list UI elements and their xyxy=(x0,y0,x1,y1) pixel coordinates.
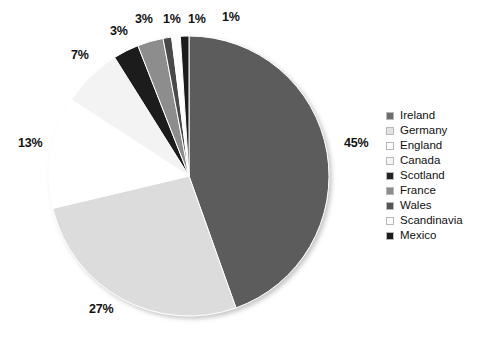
legend-swatch-icon xyxy=(386,217,394,225)
legend-item-england[interactable]: England xyxy=(386,138,492,153)
pie-chart-area: 45%27%13%7%3%3%1%1%1% xyxy=(0,0,380,342)
legend-item-ireland[interactable]: Ireland xyxy=(386,108,492,123)
chart-legend: IrelandGermanyEnglandCanadaScotlandFranc… xyxy=(386,108,492,243)
legend-item-mexico[interactable]: Mexico xyxy=(386,228,492,243)
legend-item-label: Scandinavia xyxy=(400,214,463,227)
pie-slices-group xyxy=(49,36,329,316)
slice-percent-label: 3% xyxy=(110,24,128,38)
slice-percent-label: 7% xyxy=(71,48,89,62)
slice-percent-label: 1% xyxy=(188,12,206,26)
pie-chart-svg xyxy=(0,0,380,342)
legend-item-label: Mexico xyxy=(400,229,436,242)
slice-percent-label: 27% xyxy=(89,302,113,316)
slice-percent-label: 45% xyxy=(344,136,368,150)
legend-item-label: Ireland xyxy=(400,109,435,122)
legend-item-label: Wales xyxy=(400,199,432,212)
slice-percent-label: 3% xyxy=(135,12,153,26)
legend-item-label: France xyxy=(400,184,436,197)
legend-swatch-icon xyxy=(386,112,394,120)
legend-swatch-icon xyxy=(386,172,394,180)
legend-swatch-icon xyxy=(386,202,394,210)
legend-item-france[interactable]: France xyxy=(386,183,492,198)
legend-item-label: Canada xyxy=(400,154,440,167)
slice-percent-label: 1% xyxy=(222,10,240,24)
legend-swatch-icon xyxy=(386,187,394,195)
legend-item-scotland[interactable]: Scotland xyxy=(386,168,492,183)
legend-swatch-icon xyxy=(386,232,394,240)
legend-swatch-icon xyxy=(386,127,394,135)
legend-item-label: Scotland xyxy=(400,169,445,182)
legend-item-canada[interactable]: Canada xyxy=(386,153,492,168)
legend-swatch-icon xyxy=(386,157,394,165)
pie-chart-figure: 45%27%13%7%3%3%1%1%1% IrelandGermanyEngl… xyxy=(0,0,496,342)
legend-swatch-icon xyxy=(386,142,394,150)
legend-item-label: England xyxy=(400,139,442,152)
slice-percent-label: 13% xyxy=(18,136,42,150)
slice-percent-label: 1% xyxy=(163,12,181,26)
legend-item-label: Germany xyxy=(400,124,447,137)
legend-item-wales[interactable]: Wales xyxy=(386,198,492,213)
legend-item-scandinavia[interactable]: Scandinavia xyxy=(386,213,492,228)
legend-item-germany[interactable]: Germany xyxy=(386,123,492,138)
